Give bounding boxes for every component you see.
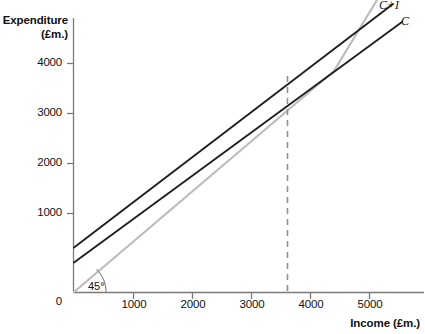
y-axis-title-line2: (£m.) — [0, 28, 68, 40]
series-line-c — [74, 22, 402, 263]
x-tick-label-4000: 4000 — [286, 299, 336, 311]
expenditure-income-chart: Expenditure (£m.) Income (£m.) 4000 3000… — [0, 0, 425, 334]
x-tick-label-5000: 5000 — [345, 299, 395, 311]
series-line-c-plus-i — [74, 4, 393, 248]
x-axis-title-text: Income (£m.) — [350, 317, 420, 329]
angle-label-45-degrees: 45° — [88, 281, 105, 292]
y-tick-label-4000: 4000 — [14, 57, 62, 69]
y-axis-title-line1: Expenditure — [0, 14, 68, 26]
y-axis-title: Expenditure (£m.) — [0, 14, 68, 40]
chart-plot-area — [0, 0, 425, 334]
series-line-45-degree — [74, 71, 334, 292]
x-tick-label-2000: 2000 — [168, 299, 218, 311]
x-tick-label-3000: 3000 — [227, 299, 277, 311]
series-line-45-degree-upper — [334, 0, 377, 71]
x-tick-label-1000: 1000 — [109, 299, 159, 311]
y-axis-ticks — [67, 64, 74, 214]
curve-label-c: C — [401, 15, 409, 27]
y-tick-label-2000: 2000 — [14, 157, 62, 169]
curve-label-c-plus-i: C+I — [379, 0, 399, 11]
y-tick-label-1000: 1000 — [14, 207, 62, 219]
x-axis-title: Income (£m.) — [265, 313, 420, 331]
y-tick-label-0: 0 — [14, 296, 62, 308]
y-tick-label-3000: 3000 — [14, 107, 62, 119]
